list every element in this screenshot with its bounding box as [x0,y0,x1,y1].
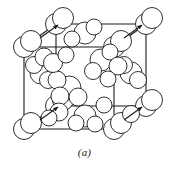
atom-sphere-corner-back-top-right [142,8,163,29]
atom-sphere-interior-lower [123,106,140,123]
atom-sphere-face-top [64,31,80,47]
atom-sphere-interior-cluster-right [85,63,102,80]
atom-sphere-interior-cluster-left [48,71,66,89]
atom-sphere-face-right [130,72,147,89]
atom-sphere-corner-front-top-left [21,31,42,52]
atom-sphere-interior-upper [58,47,74,63]
atom-sphere-face-bottom [87,116,103,132]
atom-sphere-face-top [86,19,102,35]
crystal-structure-figure: (a) [0,0,169,172]
figure-caption: (a) [0,146,169,158]
atom-sphere-interior-cluster-left [51,87,69,105]
atom-sphere-face-bottom [68,115,84,131]
atom-sphere-corner-back-bottom-right [142,90,163,111]
atom-sphere-interior-cluster-left [69,88,87,106]
atom-sphere-corner-front-bottom-left [21,113,42,134]
atom-sphere-interior-cluster-right [100,71,116,87]
atom-sphere-interior-lower [96,97,112,113]
atom-sphere-corner-back-top-left [53,8,74,29]
